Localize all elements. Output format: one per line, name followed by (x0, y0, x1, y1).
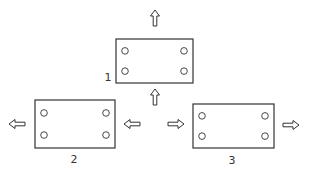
arrow-right-inner-icon (168, 120, 184, 129)
bolt-hole-icon (181, 68, 188, 75)
bolt-hole-icon (122, 48, 129, 55)
arrow-left-outer-icon (9, 120, 25, 129)
plate-outline (193, 104, 274, 148)
bolt-hole-icon (181, 48, 188, 55)
plate-3: 3 (193, 104, 274, 167)
plate-1: 1 (105, 39, 194, 84)
plate-label: 3 (229, 154, 236, 167)
plate-label: 1 (105, 71, 112, 84)
arrows-layer (9, 10, 299, 130)
diagram-canvas: 123 (0, 0, 315, 174)
plate-label: 2 (71, 153, 78, 166)
arrow-left-inner-icon (124, 120, 140, 129)
bolt-hole-icon (41, 110, 48, 117)
bolt-hole-icon (262, 113, 269, 120)
bolt-hole-icon (103, 132, 110, 139)
bolt-hole-icon (262, 133, 269, 140)
bolt-hole-icon (41, 132, 48, 139)
arrow-right-outer-icon (283, 121, 299, 130)
bolt-hole-icon (122, 68, 129, 75)
bolt-hole-icon (199, 113, 206, 120)
plate-outline (35, 100, 115, 148)
arrow-up-top-icon (151, 10, 160, 26)
plate-2: 2 (35, 100, 115, 166)
arrow-up-middle-icon (151, 89, 160, 105)
plate-outline (116, 39, 193, 83)
bolt-hole-icon (199, 133, 206, 140)
bolt-hole-icon (103, 110, 110, 117)
